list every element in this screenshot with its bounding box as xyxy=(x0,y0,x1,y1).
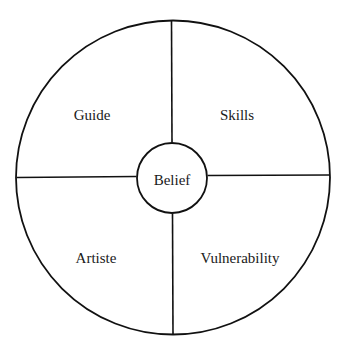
divider-bottom xyxy=(173,214,174,335)
quadrant-label-vulnerability: Vulnerability xyxy=(200,250,280,266)
center-label-belief: Belief xyxy=(154,172,191,188)
quadrant-label-artiste: Artiste xyxy=(76,250,117,266)
divider-top xyxy=(172,21,173,143)
quadrant-label-guide: Guide xyxy=(74,107,111,123)
quadrant-wheel-diagram: Guide Skills Artiste Vulnerability Belie… xyxy=(0,0,341,350)
divider-right xyxy=(208,175,330,176)
quadrant-label-skills: Skills xyxy=(220,107,254,123)
divider-left xyxy=(17,177,137,178)
